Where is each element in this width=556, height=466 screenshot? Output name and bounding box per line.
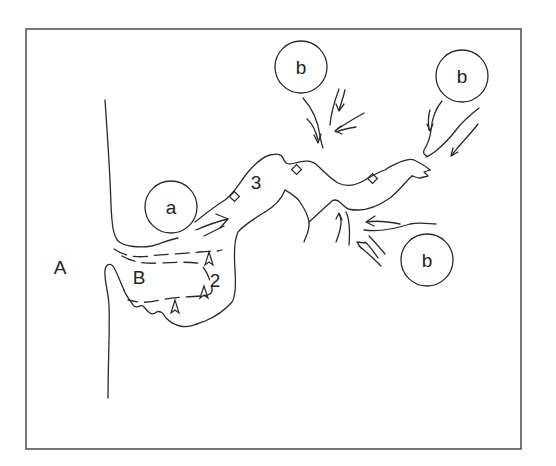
circle-a: a bbox=[145, 181, 197, 233]
circle-b2-label: b bbox=[457, 66, 468, 87]
diamond-marker-2 bbox=[292, 165, 302, 175]
stream-b3-1 bbox=[346, 212, 350, 245]
dashed-line-3 bbox=[128, 296, 200, 302]
zone-3-label: 3 bbox=[251, 172, 262, 193]
region-b-label: B bbox=[133, 267, 146, 288]
zone-2-label: 2 bbox=[210, 270, 221, 291]
peninsula bbox=[285, 190, 309, 242]
channel-lower-left bbox=[265, 190, 285, 212]
stream-b3-3 bbox=[367, 221, 400, 224]
channel-upper bbox=[195, 154, 430, 222]
diamond-marker-1 bbox=[230, 192, 240, 202]
stream-b1-1 bbox=[303, 98, 323, 148]
stream-b3-2-head bbox=[336, 213, 342, 220]
circle-b-lower-right: b bbox=[401, 234, 453, 286]
chevron-marker-3 bbox=[171, 300, 179, 313]
stream-b2-2-head bbox=[427, 124, 433, 131]
circle-b3-label: b bbox=[422, 250, 433, 271]
stream-b3-7 bbox=[359, 246, 381, 266]
stream-b2-4 bbox=[452, 124, 478, 155]
chevron-marker-1 bbox=[205, 252, 213, 265]
circle-b1-label: b bbox=[296, 57, 307, 78]
dashed-line-1 bbox=[114, 249, 222, 257]
region-a-label: A bbox=[54, 257, 67, 278]
stream-b3-5 bbox=[369, 236, 385, 254]
circle-b-top-middle: b bbox=[275, 41, 327, 93]
circle-a-label: a bbox=[166, 197, 177, 218]
arrow-shaft-a2 bbox=[204, 226, 224, 236]
coastline-lower bbox=[105, 264, 124, 398]
circle-b-top-right: b bbox=[436, 50, 488, 102]
channel-east-end bbox=[412, 170, 430, 178]
diagram-canvas: a b b b A B 2 3 bbox=[0, 0, 556, 466]
